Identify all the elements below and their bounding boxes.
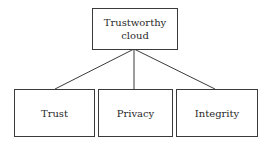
connector-integrity [134,49,215,89]
connector-trust [55,49,134,89]
child-label: Privacy [117,107,155,120]
root-label-line1: Trustworthy [104,16,167,29]
child-node-integrity: Integrity [176,89,258,137]
child-label: Integrity [195,107,239,120]
root-label-line2: cloud [121,29,149,42]
child-node-privacy: Privacy [98,89,173,137]
child-label: Trust [41,107,68,120]
root-node-trustworthy-cloud: Trustworthy cloud [92,8,178,50]
child-node-trust: Trust [14,89,95,137]
